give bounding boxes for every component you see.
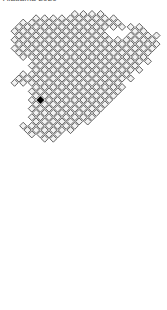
diamond-grid-map[interactable] xyxy=(0,4,167,310)
chart-title: Alabama 2020 xyxy=(3,0,57,3)
grid-svg xyxy=(0,4,167,310)
tile-cartogram-panel: Alabama 2020 xyxy=(0,0,167,310)
